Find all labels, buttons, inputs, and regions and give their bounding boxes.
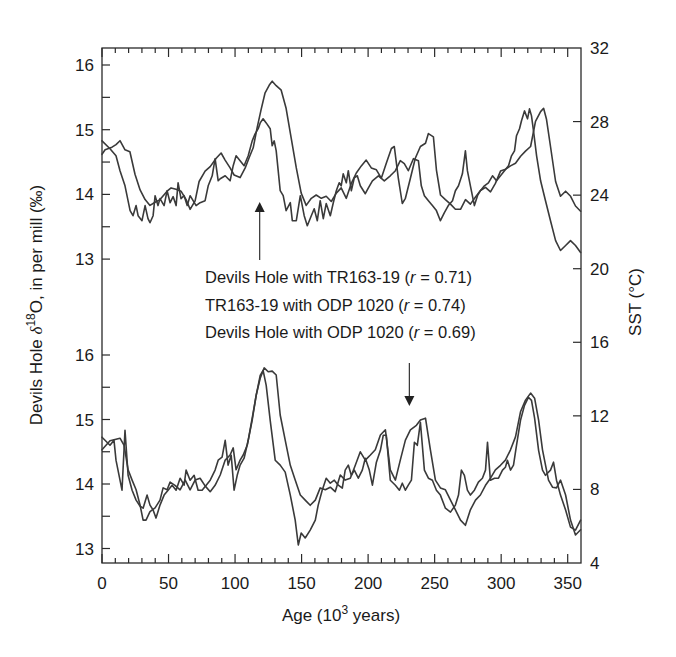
paleoclimate-chart: Devils Hole with TR163-19 (r = 0.71)TR16… [0, 0, 676, 657]
left-tick-label: 13 [75, 250, 94, 269]
x-axis-title: Age (103 years) [282, 603, 400, 625]
correlation-annotation: TR163-19 with ODP 1020 (r = 0.74) [205, 296, 466, 314]
right-tick-label: 12 [590, 407, 609, 426]
bottom-devils-hole-18o-line [102, 368, 581, 535]
top-tr163-19-sst-line [102, 109, 581, 253]
right-tick-label: 4 [590, 554, 599, 573]
correlation-annotation: Devils Hole with ODP 1020 (r = 0.69) [205, 323, 476, 341]
right-tick-label: 20 [590, 260, 609, 279]
x-tick-label: 300 [487, 574, 515, 593]
right-tick-label: 8 [590, 480, 599, 499]
x-tick-label: 150 [287, 574, 315, 593]
x-tick-label: 0 [97, 574, 106, 593]
arrow-up-head-icon [255, 202, 265, 212]
left-tick-label: 16 [75, 346, 94, 365]
x-tick-label: 350 [554, 574, 582, 593]
top-devils-hole-18o-line [102, 81, 581, 211]
arrow-down-head-icon [404, 396, 414, 406]
bottom-odp-1020-sst-line [102, 370, 581, 545]
x-tick-label: 250 [420, 574, 448, 593]
right-axis-title: SST (°C) [626, 268, 645, 336]
left-tick-label: 14 [75, 475, 94, 494]
left-tick-label: 15 [75, 411, 94, 430]
left-axis-title: Devils Hole δ18O, in per mill (‰) [24, 185, 46, 425]
annotation-layer: Devils Hole with TR163-19 (r = 0.71)TR16… [205, 202, 476, 406]
correlation-annotation: Devils Hole with TR163-19 (r = 0.71) [205, 268, 472, 286]
left-tick-label: 13 [75, 540, 94, 559]
left-tick-label: 14 [75, 185, 94, 204]
right-tick-label: 32 [590, 39, 609, 58]
left-tick-label: 16 [75, 56, 94, 75]
left-tick-label: 15 [75, 121, 94, 140]
x-tick-label: 200 [354, 574, 382, 593]
right-tick-label: 28 [590, 113, 609, 132]
x-tick-label: 50 [159, 574, 178, 593]
right-tick-label: 16 [590, 333, 609, 352]
right-tick-label: 24 [590, 186, 609, 205]
x-tick-label: 100 [221, 574, 249, 593]
